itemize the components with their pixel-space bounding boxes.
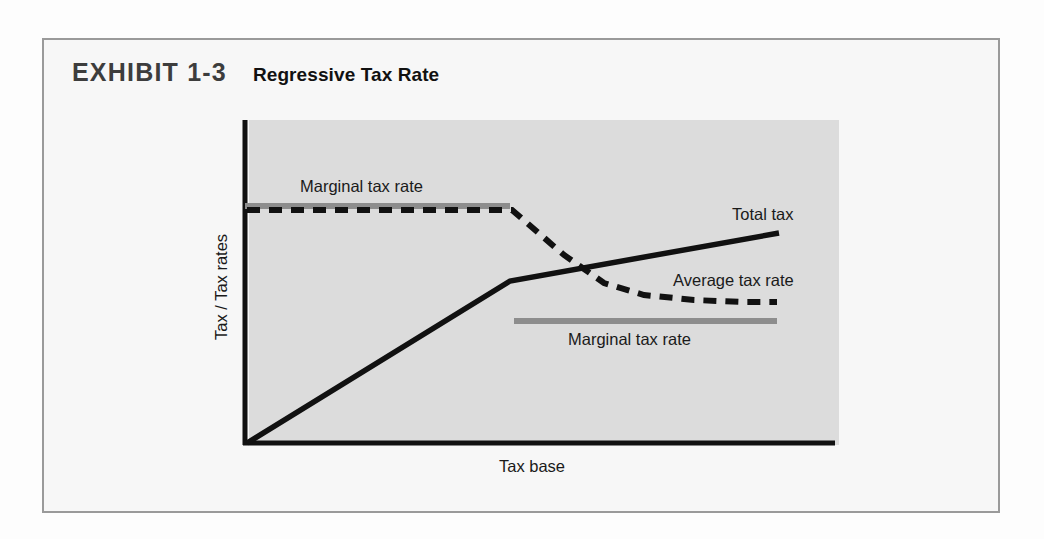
total-tax-line	[247, 233, 779, 443]
label-marginal-tax-rate-upper: Marginal tax rate	[300, 177, 423, 195]
label-average-tax-rate: Average tax rate	[673, 271, 794, 289]
x-axis-title: Tax base	[499, 457, 565, 475]
page-canvas: EXHIBIT 1-3 Regressive Tax Rate Marginal…	[0, 0, 1044, 539]
y-axis-title: Tax / Tax rates	[212, 234, 230, 340]
label-total-tax: Total tax	[732, 205, 794, 223]
exhibit-frame: EXHIBIT 1-3 Regressive Tax Rate Marginal…	[42, 38, 1000, 513]
chart-figure: Marginal tax rate Total tax Average tax …	[44, 40, 1002, 515]
label-marginal-tax-rate-lower: Marginal tax rate	[568, 330, 691, 348]
